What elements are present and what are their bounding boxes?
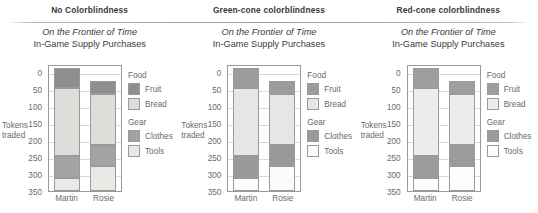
chart-panel-2: On the Frontier of TimeIn-Game Supply Pu…: [359, 25, 538, 213]
bar-segment-fruit[interactable]: [233, 68, 259, 87]
bar-segment-clothes[interactable]: [413, 156, 439, 178]
stacked-bar-martin[interactable]: [54, 66, 80, 191]
legend-item-clothes[interactable]: Clothes: [487, 129, 538, 143]
chart-title: On the Frontier of TimeIn-Game Supply Pu…: [179, 27, 358, 50]
x-tick-label-martin: Martin: [50, 194, 84, 208]
legend-item-tools[interactable]: Tools: [487, 144, 538, 158]
legend-item-clothes[interactable]: Clothes: [307, 129, 365, 143]
bar-segment-bread[interactable]: [269, 94, 295, 145]
legend-item-bread[interactable]: Bread: [307, 97, 365, 111]
legend-label-clothes: Clothes: [324, 132, 352, 141]
stacked-bar-rosie[interactable]: [269, 66, 295, 191]
panel-header-label: No Colorblindness: [51, 5, 128, 15]
bar-segment-clothes[interactable]: [269, 145, 295, 165]
legend-group-gear: GearClothesTools: [128, 118, 186, 158]
legend-item-bread[interactable]: Bread: [487, 97, 538, 111]
legend-swatch-tools: [307, 145, 319, 157]
bar-segment-fruit[interactable]: [449, 81, 475, 95]
bar-segment-clothes[interactable]: [233, 156, 259, 178]
y-tick-label: 50: [33, 86, 42, 95]
y-tick-label: 350: [28, 188, 42, 197]
stacked-bar-rosie[interactable]: [449, 66, 475, 191]
stacked-bar-martin[interactable]: [233, 66, 259, 191]
y-tick-label: 200: [387, 137, 401, 146]
legend-item-bread[interactable]: Bread: [128, 97, 186, 111]
x-tick-label-rosie: Rosie: [445, 194, 479, 208]
y-axis-ticks: 350300250200150100500: [359, 65, 404, 192]
stacked-bar-rosie[interactable]: [90, 66, 116, 191]
bar-segment-tools[interactable]: [449, 166, 475, 191]
legend-item-fruit[interactable]: Fruit: [487, 82, 538, 96]
bar-segment-fruit[interactable]: [54, 68, 80, 87]
bar-segment-tools[interactable]: [233, 178, 259, 191]
bar-segment-fruit[interactable]: [269, 81, 295, 95]
y-axis-ticks: 350300250200150100500: [179, 65, 224, 192]
panel-row: On the Frontier of TimeIn-Game Supply Pu…: [0, 25, 538, 213]
y-tick-label: 350: [208, 188, 222, 197]
legend-label-tools: Tools: [324, 147, 343, 156]
y-tick-label: 200: [208, 137, 222, 146]
y-tick-label: 250: [387, 154, 401, 163]
legend: FoodFruitBreadGearClothesTools: [487, 71, 538, 159]
legend-group-food: FoodFruitBread: [487, 71, 538, 111]
bar-segment-tools[interactable]: [413, 178, 439, 191]
legend-item-clothes[interactable]: Clothes: [128, 129, 186, 143]
bar-segment-clothes[interactable]: [90, 145, 116, 165]
bar-group: [408, 66, 480, 191]
legend-label-tools: Tools: [504, 147, 523, 156]
bar-group: [49, 66, 121, 191]
legend: FoodFruitBreadGearClothesTools: [128, 71, 186, 159]
panel-header-row: No Colorblindness Green-cone colorblindn…: [0, 0, 538, 19]
legend-item-tools[interactable]: Tools: [307, 144, 365, 158]
chart-title-line1: On the Frontier of Time: [0, 27, 179, 39]
legend-swatch-bread: [487, 98, 499, 110]
legend-label-bread: Bread: [504, 100, 526, 109]
bar-segment-bread[interactable]: [54, 88, 80, 156]
x-tick-label-rosie: Rosie: [87, 194, 121, 208]
legend-swatch-tools: [128, 145, 140, 157]
stacked-bar-martin[interactable]: [413, 66, 439, 191]
legend-group-title: Gear: [487, 118, 538, 127]
legend-label-fruit: Fruit: [145, 85, 161, 94]
bar-segment-bread[interactable]: [90, 94, 116, 145]
chart-title: On the Frontier of TimeIn-Game Supply Pu…: [359, 27, 538, 50]
bar-segment-bread[interactable]: [449, 94, 475, 145]
legend-swatch-clothes: [487, 130, 499, 142]
bar-segment-tools[interactable]: [54, 178, 80, 191]
chart-panel-1: On the Frontier of TimeIn-Game Supply Pu…: [179, 25, 358, 213]
bar-segment-tools[interactable]: [90, 166, 116, 191]
legend-swatch-fruit: [487, 83, 499, 95]
y-tick-label: 300: [28, 171, 42, 180]
panel-header-0: No Colorblindness: [0, 0, 179, 19]
y-tick-label: 200: [28, 137, 42, 146]
bar-segment-fruit[interactable]: [413, 68, 439, 87]
legend-item-tools[interactable]: Tools: [128, 144, 186, 158]
legend-item-fruit[interactable]: Fruit: [307, 82, 365, 96]
x-tick-label-martin: Martin: [229, 194, 263, 208]
legend-item-fruit[interactable]: Fruit: [128, 82, 186, 96]
chart-title-line2: In-Game Supply Purchases: [359, 39, 538, 51]
bar-segment-tools[interactable]: [269, 166, 295, 191]
y-tick-label: 350: [387, 188, 401, 197]
plot-area: [407, 65, 481, 192]
y-tick-label: 100: [28, 103, 42, 112]
y-tick-label: 100: [208, 103, 222, 112]
bar-segment-clothes[interactable]: [54, 156, 80, 178]
legend-swatch-clothes: [307, 130, 319, 142]
legend-label-fruit: Fruit: [504, 85, 520, 94]
panel-header-2: Red-cone colorblindness: [359, 0, 538, 19]
legend-group-gear: GearClothesTools: [307, 118, 365, 158]
chart-title-line1: On the Frontier of Time: [179, 27, 358, 39]
bar-segment-bread[interactable]: [413, 88, 439, 156]
legend: FoodFruitBreadGearClothesTools: [307, 71, 365, 159]
y-axis-ticks: 350300250200150100500: [0, 65, 45, 192]
bar-segment-bread[interactable]: [233, 88, 259, 156]
bar-segment-fruit[interactable]: [90, 81, 116, 95]
y-tick-label: 300: [387, 171, 401, 180]
y-tick-label: 50: [212, 86, 221, 95]
bar-segment-clothes[interactable]: [449, 145, 475, 165]
panel-header-label: Green-cone colorblindness: [213, 5, 325, 15]
legend-swatch-fruit: [307, 83, 319, 95]
legend-group-title: Food: [307, 71, 365, 80]
x-tick-label-rosie: Rosie: [266, 194, 300, 208]
